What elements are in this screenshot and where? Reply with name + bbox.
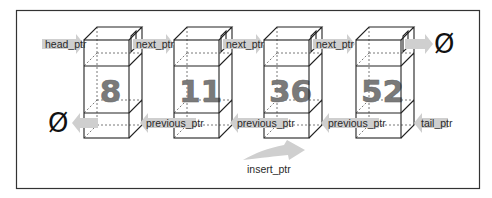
node-value: 52 [361,73,404,109]
null-symbol-right: Ø [434,29,454,59]
previous-ptr-label-2: previous_ptr [237,117,295,129]
linked-list-diagram: 8113652 head_ptr next_ptr next_ptr next_… [0,0,492,198]
null-symbol-left: Ø [48,108,68,138]
next-ptr-label-3: next_ptr [316,38,354,50]
head-ptr-label: head_ptr [45,38,87,50]
previous-ptr-label-3: previous_ptr [328,117,386,129]
node-value: 11 [179,73,222,109]
node-value: 8 [100,73,122,109]
tail-ptr-label: tail_ptr [421,117,453,129]
previous-ptr-label-1: previous_ptr [146,117,204,129]
insert-ptr-label: insert_ptr [247,163,291,175]
next-ptr-label-1: next_ptr [136,38,174,50]
node-value: 36 [269,73,312,109]
next-ptr-label-2: next_ptr [226,38,264,50]
